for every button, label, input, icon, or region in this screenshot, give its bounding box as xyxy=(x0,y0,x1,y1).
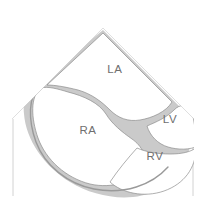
echocardiogram-diagram: LA RA LV RV xyxy=(0,0,206,202)
chamber-label-rv: RV xyxy=(147,150,164,162)
echo-sector-canvas: LA RA LV RV xyxy=(0,0,206,202)
chamber-label-lv: LV xyxy=(163,113,177,125)
chamber-label-ra: RA xyxy=(79,124,96,136)
chamber-label-la: LA xyxy=(107,63,122,75)
